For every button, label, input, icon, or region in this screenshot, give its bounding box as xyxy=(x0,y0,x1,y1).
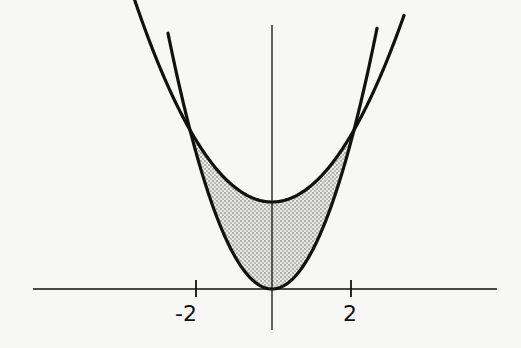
broad-parabola-curve xyxy=(133,0,404,202)
x-tick-label-pos2: 2 xyxy=(343,303,357,325)
x-tick-label-neg2: -2 xyxy=(175,303,197,325)
chart-figure: -2 2 xyxy=(0,0,521,348)
plot-canvas xyxy=(0,0,521,348)
